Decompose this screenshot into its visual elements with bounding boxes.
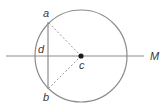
radius-c-b: [48, 56, 81, 89]
circle-geometry-diagram: a d b c M: [0, 0, 168, 106]
geometry-canvas: a d b c M: [0, 0, 168, 106]
label-point-b: b: [43, 91, 49, 103]
label-point-d: d: [38, 43, 45, 55]
label-point-a: a: [43, 7, 49, 19]
radius-c-a: [48, 22, 81, 56]
label-center-c: c: [79, 59, 85, 71]
center-point-dot: [78, 53, 83, 58]
label-line-m: M: [150, 50, 160, 62]
